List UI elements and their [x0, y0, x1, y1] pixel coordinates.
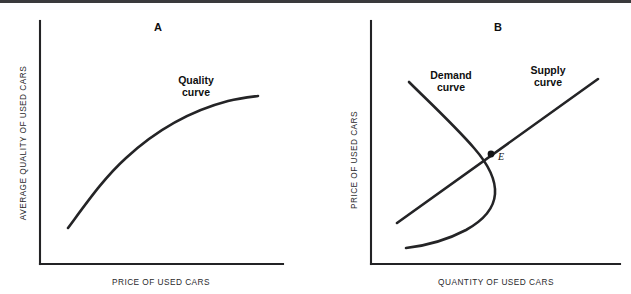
panel-a-x-axis-title: PRICE OF USED CARS: [112, 277, 210, 287]
quality-curve-label-line1: Quality: [178, 74, 214, 86]
panel-a-svg: A Quality curve PRICE OF USED CARS AVERA…: [0, 0, 315, 294]
panel-b-svg: E B Demand curve Supply curve QUANTITY O…: [316, 0, 631, 294]
quality-curve: [68, 96, 258, 228]
panel-a: A Quality curve PRICE OF USED CARS AVERA…: [0, 0, 315, 294]
panel-a-letter: A: [154, 21, 162, 33]
panel-b-y-axis-title: PRICE OF USED CARS: [349, 111, 359, 209]
figure-root: A Quality curve PRICE OF USED CARS AVERA…: [0, 0, 631, 294]
demand-curve-label-line1: Demand: [430, 69, 471, 81]
demand-curve: [406, 82, 495, 248]
supply-curve-label-line2: curve: [534, 76, 562, 88]
panel-b: E B Demand curve Supply curve QUANTITY O…: [316, 0, 631, 294]
equilibrium-point-label: E: [497, 151, 504, 162]
panel-a-y-axis-title: AVERAGE QUALITY OF USED CARS: [18, 66, 28, 220]
quality-curve-label-line2: curve: [182, 86, 210, 98]
panel-b-x-axis-title: QUANTITY OF USED CARS: [438, 277, 554, 287]
supply-curve-label-line1: Supply: [530, 64, 565, 76]
demand-curve-label-line2: curve: [437, 81, 465, 93]
equilibrium-point-dot: [488, 151, 495, 158]
panel-b-letter: B: [494, 21, 502, 33]
